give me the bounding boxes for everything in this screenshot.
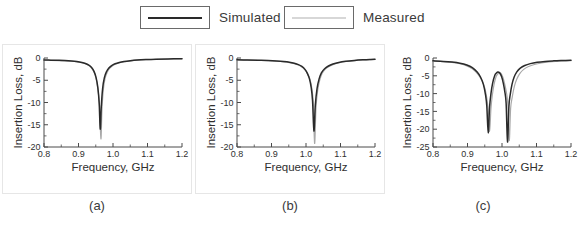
svg-text:-20: -20 [220,142,233,152]
svg-text:0.9: 0.9 [461,149,474,159]
legend-swatch-simulated [140,6,210,29]
svg-text:-5: -5 [225,75,233,85]
svg-text:-5: -5 [421,71,429,81]
svg-text:-15: -15 [416,107,429,117]
svg-text:Insertion Loss, dB: Insertion Loss, dB [401,56,413,148]
svg-text:-10: -10 [27,98,40,108]
svg-text:1.2: 1.2 [369,149,382,159]
legend-line-simulated [148,17,202,19]
svg-text:Frequency, GHz: Frequency, GHz [72,161,155,173]
svg-text:1.1: 1.1 [141,149,154,159]
svg-text:-15: -15 [27,120,40,130]
svg-text:1.0: 1.0 [300,149,313,159]
caption-a: (a) [2,198,192,213]
plot-panel-c: 0.80.91.01.11.20-5-10-15-20-25Frequency,… [388,44,578,194]
svg-text:0.9: 0.9 [265,149,278,159]
svg-text:Insertion Loss, dB: Insertion Loss, dB [12,56,24,148]
svg-text:0.9: 0.9 [72,149,85,159]
plot-panel-b: 0.80.91.01.11.20-5-10-15-20Frequency, GH… [195,44,385,194]
legend-entry-simulated: Simulated [140,6,281,29]
svg-text:-15: -15 [220,120,233,130]
svg-text:1.0: 1.0 [107,149,120,159]
svg-text:Frequency, GHz: Frequency, GHz [265,161,348,173]
svg-text:-10: -10 [220,98,233,108]
svg-text:-5: -5 [32,75,40,85]
svg-text:1.1: 1.1 [334,149,347,159]
figure-legend: Simulated Measured [0,6,581,40]
svg-text:-20: -20 [27,142,40,152]
svg-text:0: 0 [424,53,429,63]
svg-text:Frequency, GHz: Frequency, GHz [461,161,544,173]
caption-b: (b) [195,198,385,213]
legend-label-simulated: Simulated [219,10,281,25]
caption-c: (c) [388,198,578,213]
insertion-loss-chart-b: 0.80.91.01.11.20-5-10-15-20Frequency, GH… [195,44,385,194]
svg-text:Insertion Loss, dB: Insertion Loss, dB [205,56,217,148]
svg-text:0: 0 [228,53,233,63]
svg-text:1.1: 1.1 [530,149,543,159]
legend-swatch-measured [284,6,354,29]
legend-label-measured: Measured [363,10,425,25]
svg-text:-20: -20 [416,124,429,134]
insertion-loss-chart-a: 0.80.91.01.11.20-5-10-15-20Frequency, GH… [2,44,192,194]
plot-panel-a: 0.80.91.01.11.20-5-10-15-20Frequency, GH… [2,44,192,194]
svg-text:1.0: 1.0 [496,149,509,159]
svg-text:0: 0 [35,53,40,63]
svg-text:-25: -25 [416,142,429,152]
svg-text:-10: -10 [416,89,429,99]
legend-entry-measured: Measured [284,6,425,29]
legend-line-measured [292,17,346,18]
svg-text:1.2: 1.2 [176,149,189,159]
svg-text:1.2: 1.2 [565,149,578,159]
insertion-loss-chart-c: 0.80.91.01.11.20-5-10-15-20-25Frequency,… [388,44,581,194]
